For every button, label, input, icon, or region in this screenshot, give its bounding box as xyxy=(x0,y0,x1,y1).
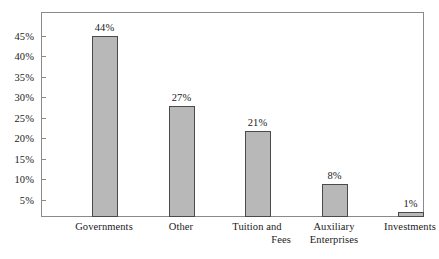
x-axis-label-line1: Auxiliary xyxy=(313,221,354,232)
bar-chart: 45% 40% 35% 30% 25% 20% 15% 10% xyxy=(0,0,439,259)
y-axis-tick: 40% xyxy=(0,51,41,63)
bar-investments[interactable] xyxy=(398,212,424,217)
x-axis-label-investments: Investments xyxy=(365,220,439,233)
bar-group-other: 27% xyxy=(143,12,220,217)
bar-group-auxiliary-enterprises: 8% xyxy=(296,12,373,217)
bar-other[interactable] xyxy=(169,106,195,217)
y-axis-tick-label: 15% xyxy=(14,154,34,166)
x-axis: Governments Other Tuition and Fees Auxil… xyxy=(41,220,424,259)
bar-group-tuition-and-fees: 21% xyxy=(219,12,296,217)
y-axis-tick: 25% xyxy=(0,113,41,125)
y-axis-tick-label: 40% xyxy=(14,51,34,63)
y-axis-tick-label: 20% xyxy=(14,133,34,145)
y-axis-tick: 20% xyxy=(0,133,41,145)
bar-auxiliary-enterprises[interactable] xyxy=(322,184,348,217)
y-axis-tick-label: 30% xyxy=(14,92,34,104)
y-axis-tick-label: 25% xyxy=(14,113,34,125)
bar-value-label: 44% xyxy=(75,22,135,34)
bar-value-label: 8% xyxy=(305,170,365,182)
y-axis-tick: 5% xyxy=(0,195,41,207)
x-axis-label-line1: Tuition and xyxy=(232,221,281,232)
y-axis-tick: 45% xyxy=(0,31,41,43)
y-axis-tick: 10% xyxy=(0,174,41,186)
bars-layer: 44% 27% 21% 8% 1% xyxy=(41,12,424,217)
x-axis-label-line1: Investments xyxy=(384,221,436,232)
bar-tuition-and-fees[interactable] xyxy=(245,131,271,217)
y-axis-tick-label: 5% xyxy=(20,195,34,207)
y-axis-tick-label: 35% xyxy=(14,72,34,84)
y-axis-tick: 15% xyxy=(0,154,41,166)
bar-governments[interactable] xyxy=(92,36,118,217)
bar-value-label: 21% xyxy=(228,117,288,129)
bar-value-label: 27% xyxy=(152,92,212,104)
x-axis-label-line2: Enterprises xyxy=(289,233,379,246)
y-axis-tick: 30% xyxy=(0,92,41,104)
y-axis-tick-label: 10% xyxy=(14,174,34,186)
x-axis-label-line1: Other xyxy=(169,221,193,232)
bar-value-label: 1% xyxy=(381,198,439,210)
x-axis-label-line1: Governments xyxy=(75,221,133,232)
y-axis: 45% 40% 35% 30% 25% 20% 15% 10% xyxy=(0,0,41,259)
bar-group-governments: 44% xyxy=(66,12,143,217)
y-axis-tick-label: 45% xyxy=(14,31,34,43)
y-axis-tick: 35% xyxy=(0,72,41,84)
bar-group-investments: 1% xyxy=(372,12,439,217)
